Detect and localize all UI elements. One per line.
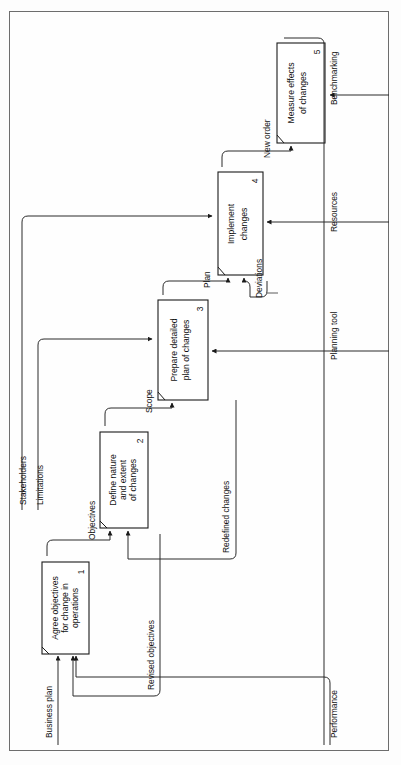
box-2-line-3: of changes bbox=[128, 459, 138, 501]
box-5[interactable]: Measure effects of changes 5 bbox=[277, 43, 325, 143]
box-2-number: 2 bbox=[135, 438, 145, 443]
label-plan: Plan bbox=[202, 271, 212, 288]
label-benchmarking: Benchmarking bbox=[329, 51, 339, 105]
box-1-line-3: operations bbox=[70, 588, 80, 628]
diagram-page: Agree objectives for change in operation… bbox=[0, 0, 401, 765]
label-new-order: New order bbox=[262, 119, 272, 158]
box-5-number: 5 bbox=[312, 49, 322, 54]
box-4-number: 4 bbox=[250, 178, 260, 183]
flow-objectives bbox=[47, 531, 110, 556]
flow-new-order bbox=[222, 146, 291, 167]
box-3-number: 3 bbox=[195, 306, 205, 311]
box-3-line-1: Prepare detailed bbox=[169, 318, 179, 381]
box-2[interactable]: Define nature and extent of changes 2 bbox=[100, 432, 148, 528]
box-5-line-2: of changes bbox=[298, 72, 308, 114]
label-business-plan: Business plan bbox=[44, 686, 54, 738]
label-scope: Scope bbox=[144, 389, 154, 413]
label-performance: Performance bbox=[329, 690, 339, 738]
label-planning-tool: Planning tool bbox=[329, 311, 339, 360]
label-redefined-changes: Redefined changes bbox=[221, 481, 231, 553]
box-1[interactable]: Agree objectives for change in operation… bbox=[42, 562, 89, 654]
label-deviations: Deviations bbox=[254, 259, 264, 298]
box-5-line-1: Measure effects bbox=[286, 63, 296, 124]
box-2-line-1: Define nature bbox=[108, 454, 118, 506]
box-1-number: 1 bbox=[76, 569, 86, 574]
box-2-line-2: and extent bbox=[118, 459, 128, 500]
box-1-line-2: for change in bbox=[60, 583, 70, 633]
flow-plan bbox=[163, 278, 228, 295]
flow-box5-output bbox=[284, 38, 324, 745]
box-3[interactable]: Prepare detailed plan of changes 3 bbox=[158, 300, 208, 400]
box-1-line-1: Agree objectives bbox=[50, 576, 60, 640]
label-objectives: Objectives bbox=[87, 501, 97, 540]
label-limitations: Limitations bbox=[35, 465, 45, 505]
label-resources: Resources bbox=[329, 192, 339, 232]
box-4-line-1: Implement bbox=[226, 203, 236, 244]
label-revised-objectives: Revised objectives bbox=[146, 620, 156, 690]
flow-scope bbox=[105, 403, 172, 426]
process-flow-diagram: Agree objectives for change in operation… bbox=[0, 0, 401, 765]
label-stakeholders: Stakeholders bbox=[18, 456, 28, 505]
box-3-line-2: plan of changes bbox=[181, 320, 191, 381]
rail-performance bbox=[76, 656, 330, 745]
box-4-line-2: changes bbox=[239, 208, 249, 241]
